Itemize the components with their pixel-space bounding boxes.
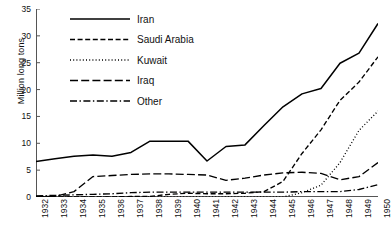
x-tick-label: 1932 [40, 199, 50, 218]
legend-label-iraq: Iraq [137, 75, 154, 86]
x-tick-label: 1944 [268, 199, 278, 218]
x-tick-label: 1943 [249, 199, 259, 218]
x-tick-label: 1942 [230, 199, 240, 218]
x-tick-label: 1934 [78, 199, 88, 218]
x-tick-label: 1940 [192, 199, 202, 218]
x-tick-label: 1941 [211, 199, 221, 218]
x-tick-label: 1948 [344, 199, 354, 218]
y-tick-label: 15 [22, 111, 34, 121]
series-line-iraq [36, 163, 378, 197]
x-tick-label: 1933 [59, 199, 69, 218]
x-tick-label: 1936 [116, 199, 126, 218]
x-tick-label: 1938 [154, 199, 164, 218]
plot-area: IranSaudi ArabiaKuwaitIraqOther [36, 9, 378, 197]
x-tick-label: 1949 [363, 199, 373, 218]
y-tick-label: 25 [22, 58, 34, 68]
y-tick-label: 10 [22, 138, 34, 148]
series-line-kuwait [36, 111, 378, 197]
y-tick-label: 30 [22, 31, 34, 41]
y-tick-label: 0 [26, 192, 34, 202]
y-axis-tick-labels: 05101520253035 [0, 9, 34, 197]
x-axis-tick-labels: 1932193319341935193619371938193919401941… [36, 199, 378, 237]
x-tick-label: 1946 [306, 199, 316, 218]
x-tick-label: 1947 [325, 199, 335, 218]
y-tick-label: 35 [22, 4, 34, 14]
x-tick-label: 1937 [135, 199, 145, 218]
x-tick-label: 1950 [382, 199, 392, 218]
x-tick-label: 1939 [173, 199, 183, 218]
legend-label-other: Other [137, 96, 163, 107]
legend-label-saudi-arabia: Saudi Arabia [137, 34, 194, 45]
y-tick-label: 20 [22, 85, 34, 95]
series-line-iran [36, 24, 378, 162]
x-tick-label: 1935 [97, 199, 107, 218]
y-tick-label: 5 [26, 165, 34, 175]
plot-svg: IranSaudi ArabiaKuwaitIraqOther [36, 9, 378, 197]
legend-label-iran: Iran [137, 14, 154, 25]
legend-label-kuwait: Kuwait [137, 55, 167, 66]
x-tick-label: 1945 [287, 199, 297, 218]
